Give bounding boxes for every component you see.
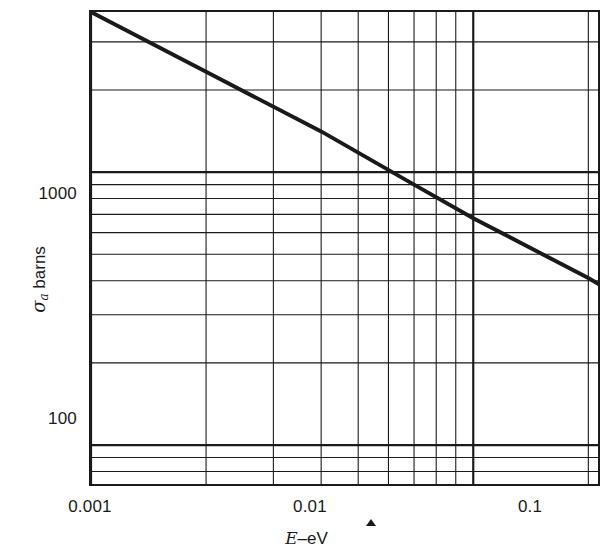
x-axis-unit: eV	[307, 529, 328, 548]
data-series-line	[91, 12, 598, 284]
y-minor-gridlines	[91, 42, 598, 472]
energy-symbol: E	[285, 528, 297, 548]
x-tick-label-0.1: 0.1	[482, 498, 578, 515]
y-major-gridlines	[91, 172, 598, 445]
x-axis-title: E–eV	[0, 528, 613, 549]
y-axis-unit: barns	[30, 246, 49, 289]
triangle-marker-icon	[366, 519, 376, 526]
y-axis-title: σa barns	[28, 195, 51, 365]
figure-root: 1000 100 0.001 0.01 0.1 σa barns E–eV	[0, 0, 613, 560]
sigma-subscript-a: a	[37, 293, 51, 300]
x-axis-dash: –	[298, 529, 307, 548]
gridlines-and-data	[91, 12, 598, 484]
sigma-symbol: σ	[28, 301, 49, 313]
x-tick-label-0.001: 0.001	[42, 498, 138, 515]
plot-area	[89, 10, 600, 486]
x-tick-label-0.01: 0.01	[262, 498, 358, 515]
y-tick-label-100: 100	[9, 410, 77, 427]
x-major-gridlines	[91, 12, 473, 484]
